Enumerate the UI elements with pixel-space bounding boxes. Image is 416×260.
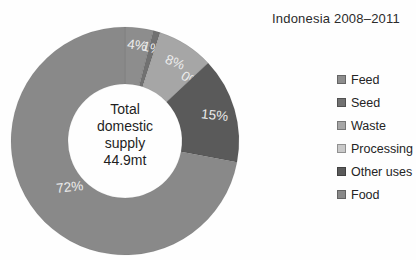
legend-item-food: Food xyxy=(337,188,413,201)
center-label-line: supply xyxy=(65,135,185,152)
slice-percent-label: 15% xyxy=(201,106,229,124)
legend-label: Other uses xyxy=(351,165,412,179)
legend-item-seed: Seed xyxy=(337,96,413,109)
legend-marker-icon xyxy=(337,190,346,199)
legend-marker-icon xyxy=(337,144,346,153)
legend-label: Processing xyxy=(351,142,413,156)
legend-item-other-uses: Other uses xyxy=(337,165,413,178)
center-label-line: Total xyxy=(65,101,185,118)
center-label-line: domestic xyxy=(65,118,185,135)
legend-marker-icon xyxy=(337,121,346,130)
center-label-line: 44.9mt xyxy=(65,152,185,169)
legend-marker-icon xyxy=(337,75,346,84)
legend-item-waste: Waste xyxy=(337,119,413,132)
legend: FeedSeedWasteProcessingOther usesFood xyxy=(337,73,413,211)
legend-marker-icon xyxy=(337,167,346,176)
chart-title: Indonesia 2008–2011 xyxy=(272,11,400,26)
legend-label: Seed xyxy=(351,96,380,110)
slice-percent-label: 72% xyxy=(55,178,83,196)
legend-label: Waste xyxy=(351,119,386,133)
figure: 4%1%8%0%15%72% Total domestic supply 44.… xyxy=(0,0,416,260)
legend-item-feed: Feed xyxy=(337,73,413,86)
legend-item-processing: Processing xyxy=(337,142,413,155)
legend-label: Feed xyxy=(351,73,380,87)
legend-marker-icon xyxy=(337,98,346,107)
legend-label: Food xyxy=(351,188,380,202)
donut-center-label: Total domestic supply 44.9mt xyxy=(65,101,185,169)
